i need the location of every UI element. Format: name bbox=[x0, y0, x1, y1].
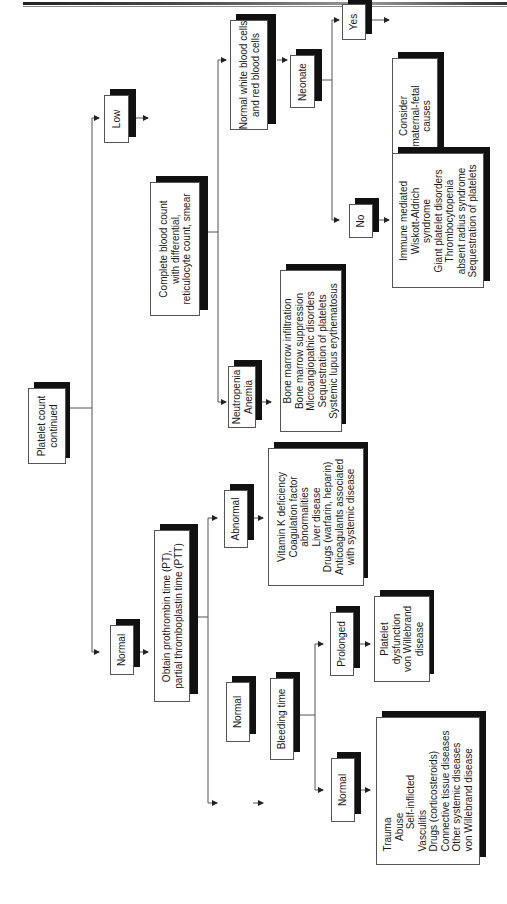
node-platelet-count: Platelet count continued bbox=[28, 388, 72, 468]
